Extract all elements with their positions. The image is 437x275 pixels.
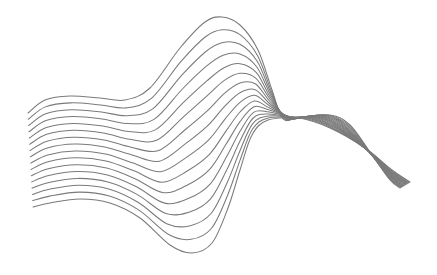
wave-line [31,106,403,193]
wave-line [29,64,407,184]
wave-line [29,53,408,183]
wave-line [28,30,409,183]
wave-line-group [28,17,410,253]
wave-line [29,42,409,183]
wave-lines-graphic [0,0,437,275]
illustration-canvas [0,0,437,275]
